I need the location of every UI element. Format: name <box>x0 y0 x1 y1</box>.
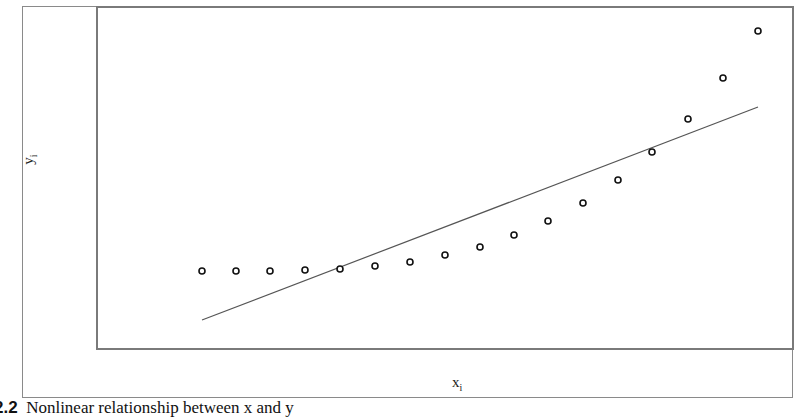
x-axis-label-subscript: i <box>460 382 463 393</box>
plot-area-border <box>97 7 793 349</box>
data-point <box>755 28 761 34</box>
x-axis-label: xi <box>452 374 462 393</box>
data-point <box>442 252 448 258</box>
data-point <box>720 75 726 81</box>
data-point <box>580 200 586 206</box>
y-axis-label: yi <box>20 154 39 164</box>
data-point <box>649 149 655 155</box>
caption-number: 2.2 <box>0 398 18 417</box>
figure-caption: 2.2 Nonlinear relationship between x and… <box>0 398 294 418</box>
data-point <box>233 268 239 274</box>
regression-line <box>202 107 758 320</box>
y-axis-label-main: y <box>20 157 36 165</box>
data-point <box>545 218 551 224</box>
caption-text: Nonlinear relationship between x and y <box>26 398 294 417</box>
data-point <box>511 232 517 238</box>
data-point <box>199 268 205 274</box>
data-point <box>407 259 413 265</box>
x-axis-label-main: x <box>452 374 460 390</box>
data-point <box>477 244 483 250</box>
data-point <box>267 268 273 274</box>
data-point <box>615 177 621 183</box>
data-point <box>302 267 308 273</box>
data-point <box>337 266 343 272</box>
y-axis-label-subscript: i <box>28 154 39 157</box>
data-point <box>372 263 378 269</box>
data-point <box>685 116 691 122</box>
